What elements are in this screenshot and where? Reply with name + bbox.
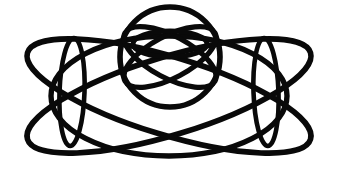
line-art-drawing [0,0,338,181]
artwork-canvas [0,0,338,181]
